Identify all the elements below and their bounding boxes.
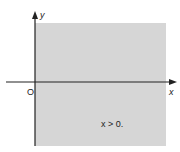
region-label: x > 0. [101,119,123,129]
half-plane-diagram: y O x x > 0. [0,0,180,152]
y-axis-label: y [39,10,45,20]
origin-label: O [27,87,34,97]
y-axis-arrow-icon [32,11,38,19]
x-axis-arrow-icon [169,79,177,85]
x-axis-label: x [168,87,174,97]
